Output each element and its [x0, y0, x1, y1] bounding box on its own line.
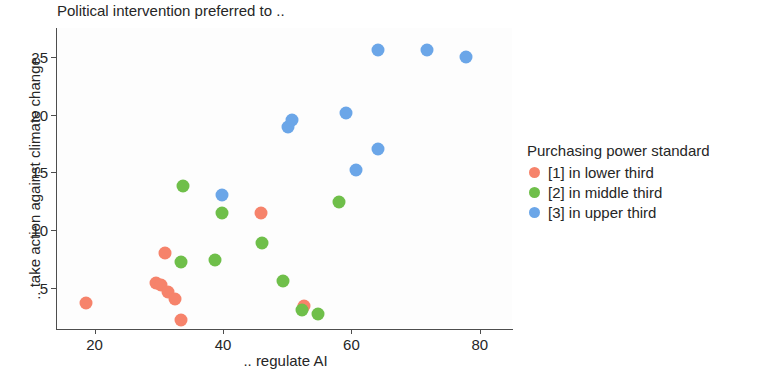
- y-tick-mark: [51, 288, 56, 289]
- legend-key-dot-icon: [529, 167, 540, 178]
- data-point: [332, 196, 345, 209]
- x-tick-mark: [480, 329, 481, 334]
- data-point: [168, 293, 181, 306]
- y-tick-mark: [51, 57, 56, 58]
- data-point: [460, 50, 473, 63]
- data-point: [277, 274, 290, 287]
- scatter-chart: Political intervention preferred to .. .…: [0, 0, 759, 372]
- y-tick-mark: [51, 115, 56, 116]
- data-point: [349, 163, 362, 176]
- data-point: [80, 296, 93, 309]
- data-point: [174, 256, 187, 269]
- y-tick-mark: [51, 230, 56, 231]
- legend-items: [1] in lower third[2] in middle third[3]…: [527, 162, 710, 222]
- y-tick-label: 10: [31, 221, 48, 238]
- legend-item-label: [3] in upper third: [548, 204, 656, 221]
- data-point: [177, 180, 190, 193]
- legend-item-label: [2] in middle third: [548, 184, 662, 201]
- legend-item[interactable]: [3] in upper third: [527, 202, 710, 222]
- data-point: [421, 43, 434, 56]
- chart-title: Political intervention preferred to ..: [57, 2, 285, 19]
- plot-area: [56, 28, 512, 328]
- data-point: [312, 308, 325, 321]
- y-axis-line: [56, 28, 57, 329]
- y-tick-label: 15: [31, 164, 48, 181]
- x-tick-mark: [95, 329, 96, 334]
- x-tick-label: 60: [343, 336, 360, 353]
- data-point: [295, 303, 308, 316]
- data-point: [371, 143, 384, 156]
- y-tick-label: 5: [40, 279, 48, 296]
- data-point: [215, 206, 228, 219]
- data-point: [340, 107, 353, 120]
- data-point: [209, 253, 222, 266]
- data-point: [159, 247, 172, 260]
- legend-item[interactable]: [1] in lower third: [527, 162, 710, 182]
- y-tick-mark: [51, 172, 56, 173]
- legend: Purchasing power standard [1] in lower t…: [527, 142, 710, 222]
- legend-item-label: [1] in lower third: [548, 164, 654, 181]
- x-tick-label: 80: [472, 336, 489, 353]
- y-tick-label: 20: [31, 106, 48, 123]
- y-tick-label: 25: [31, 48, 48, 65]
- x-axis-title: .. regulate AI: [58, 352, 513, 369]
- x-axis-line: [56, 329, 513, 330]
- data-point: [174, 313, 187, 326]
- data-point: [256, 236, 269, 249]
- data-point: [371, 43, 384, 56]
- legend-key-dot-icon: [529, 187, 540, 198]
- data-point: [285, 114, 298, 127]
- data-point: [254, 206, 267, 219]
- data-point: [216, 189, 229, 202]
- x-tick-label: 20: [86, 336, 103, 353]
- x-tick-mark: [351, 329, 352, 334]
- legend-item[interactable]: [2] in middle third: [527, 182, 710, 202]
- legend-title: Purchasing power standard: [527, 142, 710, 159]
- x-tick-label: 40: [215, 336, 232, 353]
- legend-key-dot-icon: [529, 207, 540, 218]
- x-tick-mark: [223, 329, 224, 334]
